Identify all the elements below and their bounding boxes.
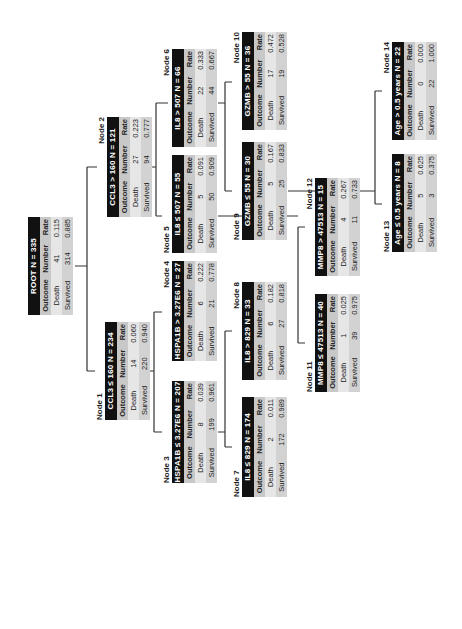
node-label: Node 2 xyxy=(97,117,107,144)
rate-cell: 0.733 xyxy=(349,178,360,202)
node-header: GZMB > 55 N = 36 xyxy=(242,32,254,130)
outcome-cell: Death xyxy=(265,457,276,497)
rate-cell: 0.167 xyxy=(265,142,276,166)
tree-node-8: Node 8 IL8 > 829 N = 33 OutcomeNumberRat… xyxy=(242,282,287,380)
node-label: Node 14 xyxy=(382,42,392,73)
number-cell: 2 xyxy=(265,422,276,457)
rate-cell: 0.833 xyxy=(276,142,287,166)
node-label: Node 9 xyxy=(232,213,242,240)
number-cell: 27 xyxy=(130,142,141,177)
node-stats-table: OutcomeNumberRate Death410.115 Survived3… xyxy=(40,217,73,315)
rate-cell: 0.025 xyxy=(338,294,349,318)
outcome-cell: Death xyxy=(195,214,206,253)
outcome-cell: Death xyxy=(338,237,349,276)
outcome-cell: Survived xyxy=(426,101,437,140)
node-label: Node 13 xyxy=(382,221,392,252)
outcome-cell: Death xyxy=(338,353,349,392)
column-header-outcome: Outcome xyxy=(404,213,415,252)
number-cell: 5 xyxy=(415,178,426,213)
number-cell: 21 xyxy=(206,286,217,321)
outcome-cell: Survived xyxy=(206,442,217,483)
column-header-number: Number xyxy=(254,422,265,457)
node-header: IL8 ≤ 829 N = 174 xyxy=(242,397,254,497)
tree-node-root: ROOT N = 335 OutcomeNumberRate Death410.… xyxy=(28,217,73,315)
rate-cell: 0.060 xyxy=(128,322,139,346)
number-cell: 8 xyxy=(195,406,206,442)
node-label: Node 6 xyxy=(162,49,172,76)
number-cell: 94 xyxy=(141,142,152,177)
node-stats-table: OutcomeNumberRate Death50.091 Survived50… xyxy=(184,155,217,253)
node-header: HSPA1B > 3.27E6 N = 27 xyxy=(172,261,184,361)
column-header-rate: Rate xyxy=(254,397,265,422)
tree-node-10: Node 10 GZMB > 55 N = 36 OutcomeNumberRa… xyxy=(242,32,287,130)
column-header-rate: Rate xyxy=(40,217,51,241)
number-cell: 1 xyxy=(338,318,349,353)
column-header-number: Number xyxy=(327,202,338,237)
column-header-rate: Rate xyxy=(184,155,195,179)
column-header-number: Number xyxy=(327,318,338,353)
number-cell: 0 xyxy=(415,66,426,101)
column-header-number: Number xyxy=(254,166,265,201)
rate-cell: 0.222 xyxy=(195,261,206,286)
number-cell: 11 xyxy=(349,202,360,237)
rate-cell: 0.472 xyxy=(265,32,276,56)
node-header: CCL3 > 160 N = 121 xyxy=(107,117,119,217)
rate-cell: 0.961 xyxy=(206,381,217,406)
node-header: GZMB ≤ 55 N = 30 xyxy=(242,142,254,240)
outcome-cell: Death xyxy=(128,381,139,420)
number-cell: 19 xyxy=(276,56,287,91)
outcome-cell: Survived xyxy=(206,321,217,361)
column-header-rate: Rate xyxy=(254,142,265,166)
number-cell: 44 xyxy=(206,73,217,108)
node-header: MMP8 ≤ 47513 N = 40 xyxy=(315,294,327,392)
tree-node-3: Node 3 HSPA1B ≤ 3.27E6 N = 207 OutcomeNu… xyxy=(172,381,217,483)
number-cell: 4 xyxy=(338,202,349,237)
column-header-outcome: Outcome xyxy=(404,101,415,140)
rate-cell: 0.625 xyxy=(415,154,426,178)
rate-cell: 0.778 xyxy=(206,261,217,286)
node-stats-table: OutcomeNumberRate Death170.472 Survived1… xyxy=(254,32,287,130)
outcome-cell: Death xyxy=(195,321,206,361)
node-header: IL8 > 829 N = 33 xyxy=(242,282,254,380)
decision-tree-diagram: ROOT N = 335 OutcomeNumberRate Death410.… xyxy=(0,0,462,629)
node-stats-table: OutcomeNumberRate Death60.222 Survived21… xyxy=(184,261,217,361)
number-cell: 39 xyxy=(349,318,360,353)
node-header: HSPA1B ≤ 3.27E6 N = 207 xyxy=(172,381,184,483)
number-cell: 3 xyxy=(426,178,437,213)
rate-cell: 0.375 xyxy=(426,154,437,178)
node-header: MMP8 > 47513 N = 15 xyxy=(315,178,327,276)
node-label: Node 4 xyxy=(162,261,172,288)
node-header: IL8 > 507 N = 66 xyxy=(172,49,184,147)
outcome-cell: Death xyxy=(415,213,426,252)
rate-cell: 0.333 xyxy=(195,49,206,73)
column-header-outcome: Outcome xyxy=(40,276,51,315)
rate-cell: 0.091 xyxy=(195,155,206,179)
outcome-cell: Survived xyxy=(141,177,152,217)
rate-cell: 0.989 xyxy=(276,397,287,422)
outcome-cell: Survived xyxy=(349,237,360,276)
outcome-cell: Survived xyxy=(426,213,437,252)
tree-node-11: Node 11 MMP8 ≤ 47513 N = 40 OutcomeNumbe… xyxy=(315,294,360,392)
column-header-outcome: Outcome xyxy=(184,321,195,361)
column-header-rate: Rate xyxy=(117,322,128,346)
tree-node-6: Node 6 IL8 > 507 N = 66 OutcomeNumberRat… xyxy=(172,49,217,147)
column-header-number: Number xyxy=(40,241,51,276)
column-header-number: Number xyxy=(184,73,195,108)
node-stats-table: OutcomeNumberRate Death140.060 Survived2… xyxy=(117,322,150,420)
node-label: Node 7 xyxy=(232,470,242,497)
node-stats-table: OutcomeNumberRate Death40.267 Survived11… xyxy=(327,178,360,276)
number-cell: 50 xyxy=(206,179,217,214)
column-header-number: Number xyxy=(184,406,195,442)
outcome-cell: Survived xyxy=(276,341,287,380)
rate-cell: 0.667 xyxy=(206,49,217,73)
outcome-cell: Death xyxy=(130,177,141,217)
number-cell: 27 xyxy=(276,306,287,341)
outcome-cell: Death xyxy=(51,276,62,315)
column-header-outcome: Outcome xyxy=(184,442,195,483)
tree-node-1: Node 1 CCL3 ≤ 160 N = 234 OutcomeNumberR… xyxy=(105,322,150,420)
column-header-rate: Rate xyxy=(254,32,265,56)
node-stats-table: OutcomeNumberRate Death10.025 Survived39… xyxy=(327,294,360,392)
column-header-number: Number xyxy=(117,346,128,381)
node-label: Node 1 xyxy=(95,393,105,420)
node-stats-table: OutcomeNumberRate Death220.333 Survived4… xyxy=(184,49,217,147)
